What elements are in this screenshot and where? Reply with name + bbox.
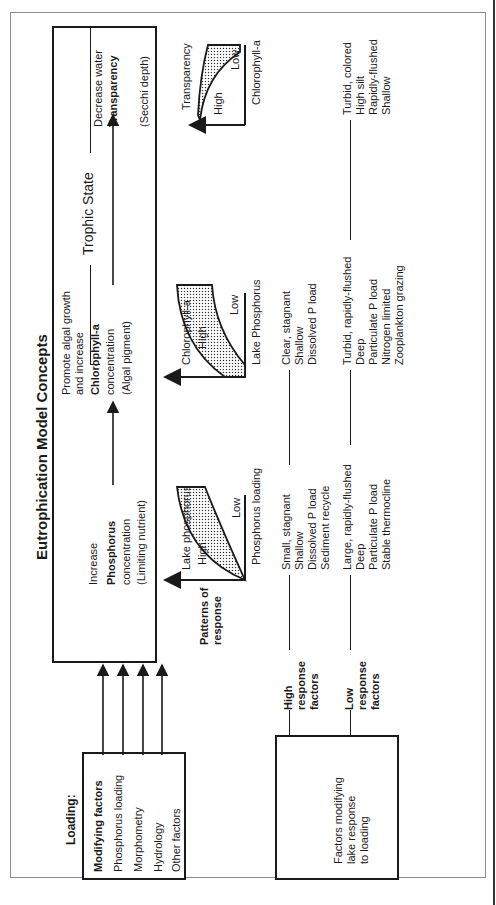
response-plots [0,0,496,905]
modifying-line2: lake response [345,796,358,865]
modifying-line1: Factors modifying [332,777,345,864]
factor-item: Zooplankton grazing [393,257,406,365]
low-col1: Large, rapidly-flushed Deep Particulate … [341,464,393,570]
low-response-label-1: Low [343,688,356,710]
plot2-low-label: Low [228,295,240,315]
factor-item: Small, stagnant [280,486,293,570]
factor-item: Stable thermocline [380,464,393,570]
low-response-label-3: factors [369,673,382,710]
factor-item: Turbid, rapidly-flushed [341,257,354,365]
plot3-high-label: High [212,92,224,115]
low-response-label-2: response [356,661,369,710]
high-col2: Clear, stagnant Shallow Dissolved P load [280,283,319,365]
factor-item: High silt [354,39,367,115]
plot2-x-axis-label: Lake Phosphorus [250,279,262,365]
factor-item: Particulate P load [367,257,380,365]
factor-item: Particulate P load [367,464,380,570]
low-connector-3 [350,120,351,240]
factor-item: Dissolved P load [306,486,319,570]
factor-item: Turbid, colored [341,39,354,115]
high-response-label-2: response [295,661,308,710]
low-connector-2 [350,370,351,445]
plot3-low-label: Low [229,50,241,70]
factor-item: Deep [354,464,367,570]
plot3-x-axis-label: Chlorophyll-a [250,40,262,105]
plot1-high-label: High [196,542,208,565]
low-col2: Turbid, rapidly-flushed Deep Particulate… [341,257,406,365]
factors-connector-low-h [350,710,351,737]
low-col3: Turbid, colored High silt Rapidly-flushe… [341,39,393,115]
plot1-x-axis-label: Phosphorus loading [250,468,262,565]
high-response-label-3: factors [308,673,321,710]
factor-item: Shallow [380,39,393,115]
plot1-y-axis-label: Lake phosphorus [180,486,192,570]
factor-item: Deep [354,257,367,365]
factor-item: Dissolved P load [306,283,319,365]
factor-item: Nitrogen limited [380,257,393,365]
low-connector [350,575,351,650]
modifying-line3: to loading [358,816,371,864]
high-response-label-1: High [282,686,295,710]
factor-item: Large, rapidly-flushed [341,464,354,570]
plot2-high-label: High [196,326,208,349]
factor-item: Sediment recycle [319,486,332,570]
factor-item: Shallow [293,283,306,365]
plot1-low-label: Low [230,498,242,518]
high-connector [289,575,290,650]
high-col1: Small, stagnant Shallow Dissolved P load… [280,486,332,570]
factor-item: Clear, stagnant [280,283,293,365]
factor-item: Rapidly-flushed [367,39,380,115]
factor-item: Shallow [293,486,306,570]
factors-connector-high-h [289,710,290,737]
high-connector-2 [289,370,290,465]
plot3-y-axis-label: Transparency [180,43,192,110]
rotated-figure: Eutrophication Model Concepts Trophic St… [0,0,496,905]
plot2-y-axis-label: Chlorophyll-a [180,300,192,365]
modifying-factors-box: Factors modifying lake response to loadi… [275,735,399,880]
